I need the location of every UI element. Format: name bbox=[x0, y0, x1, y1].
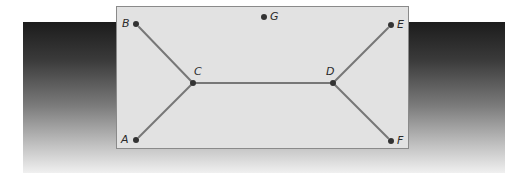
node-a bbox=[133, 137, 139, 143]
edge-d-e bbox=[335, 28, 388, 81]
node-b bbox=[133, 21, 139, 27]
node-c bbox=[190, 80, 196, 86]
label-e: E bbox=[397, 19, 404, 30]
edges bbox=[139, 27, 388, 138]
nodes bbox=[133, 14, 394, 144]
label-f: F bbox=[397, 135, 403, 146]
graph-canvas bbox=[0, 0, 528, 182]
edge-d-f bbox=[335, 85, 388, 138]
label-b: B bbox=[122, 18, 130, 29]
label-a: A bbox=[121, 134, 129, 145]
node-e bbox=[388, 22, 394, 28]
edge-b-c bbox=[139, 27, 191, 81]
node-g bbox=[261, 14, 267, 20]
label-d: D bbox=[326, 66, 334, 77]
edge-a-c bbox=[139, 85, 191, 137]
node-f bbox=[388, 138, 394, 144]
node-d bbox=[330, 80, 336, 86]
label-c: C bbox=[194, 66, 202, 77]
label-g: G bbox=[270, 11, 279, 22]
